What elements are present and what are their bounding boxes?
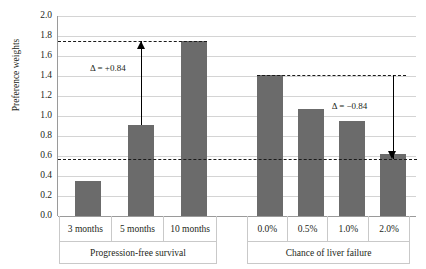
category-label-row: 3 months5 months10 months0.0%0.5%1.0%2.0… bbox=[57, 216, 416, 242]
category-label: 2.0% bbox=[369, 216, 410, 242]
y-tick-label: 0.2 bbox=[18, 191, 52, 201]
upper-left-reference bbox=[58, 41, 207, 42]
bar bbox=[339, 121, 365, 216]
bar-chart: Preference weights 0.00.20.40.60.81.01.2… bbox=[0, 0, 426, 269]
axis-group-gap bbox=[217, 216, 247, 242]
gridline-1.8 bbox=[58, 36, 416, 37]
category-label: 0.5% bbox=[288, 216, 329, 242]
delta-increase-shaft bbox=[141, 41, 142, 125]
y-tick-label: 1.2 bbox=[18, 91, 52, 101]
category-label: 1.0% bbox=[328, 216, 369, 242]
y-tick-label: 0.6 bbox=[18, 151, 52, 161]
category-label: 10 months bbox=[164, 216, 217, 242]
y-tick-label: 0.0 bbox=[18, 211, 52, 221]
y-tick-label: 1.6 bbox=[18, 51, 52, 61]
gridline-1.2 bbox=[58, 96, 416, 97]
lower-full-width-reference bbox=[58, 159, 417, 160]
bar bbox=[75, 181, 101, 216]
y-tick-label: 1.0 bbox=[18, 111, 52, 121]
bar bbox=[380, 154, 406, 216]
y-tick-label: 2.0 bbox=[18, 11, 52, 21]
group-label: Chance of liver failure bbox=[247, 242, 410, 264]
delta-decrease-shaft bbox=[393, 75, 394, 159]
category-label: 3 months bbox=[59, 216, 112, 242]
bar bbox=[298, 109, 324, 216]
gridline-1.4 bbox=[58, 76, 416, 77]
bar bbox=[257, 75, 283, 216]
bar bbox=[181, 41, 207, 216]
delta-increase-head bbox=[137, 41, 145, 49]
y-tick-label: 1.4 bbox=[18, 71, 52, 81]
bar bbox=[128, 125, 154, 216]
group-label: Progression-free survival bbox=[59, 242, 217, 264]
y-tick-label: 0.4 bbox=[18, 171, 52, 181]
upper-right-reference bbox=[257, 75, 405, 76]
y-tick-label: 1.8 bbox=[18, 31, 52, 41]
gridline-1.0 bbox=[58, 116, 416, 117]
gridline-1.6 bbox=[58, 56, 416, 57]
gridline-2.0 bbox=[58, 16, 416, 17]
delta-increase-label: Δ = +0.84 bbox=[89, 63, 127, 73]
category-label: 5 months bbox=[112, 216, 165, 242]
y-tick-label: 0.8 bbox=[18, 131, 52, 141]
delta-decrease-head bbox=[388, 151, 396, 159]
axis-group-gap bbox=[217, 242, 247, 264]
group-label-row: Progression-free survivalChance of liver… bbox=[57, 242, 416, 264]
category-label: 0.0% bbox=[247, 216, 288, 242]
category-axis-table: 3 months5 months10 months0.0%0.5%1.0%2.0… bbox=[57, 216, 416, 264]
plot-area: Δ = +0.84Δ = −0.84 bbox=[57, 16, 416, 216]
delta-decrease-label: Δ = −0.84 bbox=[331, 101, 369, 111]
